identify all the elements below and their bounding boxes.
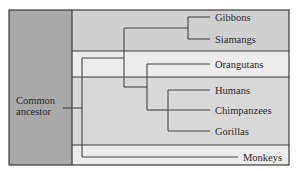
ancestor-label-line-1: Common <box>16 95 56 106</box>
taxon-label-siamangs: Siamangs <box>215 34 256 45</box>
phylogenetic-tree-diagram: Common ancestor Gibbons Siamangs Orangut… <box>0 0 297 172</box>
taxon-label-gorillas: Gorillas <box>215 126 249 137</box>
taxon-label-chimpanzees: Chimpanzees <box>215 105 272 116</box>
taxon-label-humans: Humans <box>215 85 250 96</box>
taxon-label-monkeys: Monkeys <box>243 152 282 163</box>
band-lesser-apes <box>72 10 289 51</box>
taxon-label-orangutans: Orangutans <box>215 59 263 70</box>
ancestor-label-line-2: ancestor <box>16 106 51 117</box>
ancestor-column <box>9 10 72 165</box>
taxon-label-gibbons: Gibbons <box>215 12 251 23</box>
